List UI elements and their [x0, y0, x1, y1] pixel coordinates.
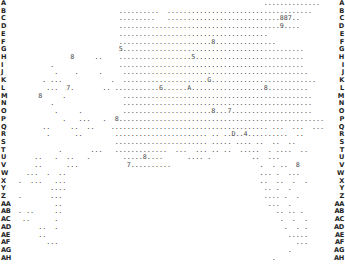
board-row-ah[interactable]: . — [14, 255, 332, 263]
row-label-ah: AH — [331, 255, 344, 263]
row-labels-right: ABCDEFGHIJKLMNOPQRSTUVWXYZAAABACADAEAFAG… — [331, 0, 344, 262]
row-labels-left: ABCDEFGHIJKLMNOPQRSTUVWXYZAAABACADAEAFAG… — [1, 0, 14, 262]
row-label-ah: AH — [1, 255, 14, 263]
game-board[interactable]: .............. .......... ..............… — [14, 0, 332, 262]
